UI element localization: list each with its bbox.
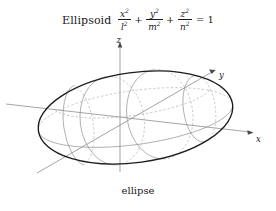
meridian-4-front: [179, 76, 204, 145]
meridian-2-front: [74, 77, 118, 170]
z-axis: [118, 42, 123, 173]
x-axis-label: x: [256, 134, 261, 144]
meridian-1-back: [73, 84, 99, 165]
equator-front-arc: [38, 104, 236, 157]
y-axis-label: y: [218, 70, 224, 80]
y-axis: [37, 70, 216, 173]
x-axis-line: [6, 104, 250, 132]
ellipsoid-diagram: z y x: [0, 0, 276, 211]
x-axis-arrowhead: [247, 130, 253, 135]
equator-back-arc: [35, 77, 233, 130]
z-axis-label: z: [116, 35, 122, 45]
ellipsoid-figure: Ellipsoid x2 l2 + y2 m2 + z2 n2 = 1: [0, 0, 276, 211]
meridian-3-back: [154, 65, 199, 159]
figure-caption: ellipse: [0, 186, 276, 196]
upper-section-arc: [55, 89, 213, 126]
